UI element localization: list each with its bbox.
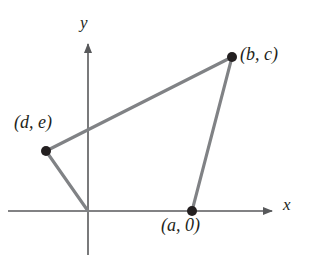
vertex-label-a0: (a, 0) — [161, 216, 200, 234]
edge-a0-to-bc — [192, 57, 232, 211]
edge-bc-to-de — [46, 57, 232, 151]
x-axis-label: x — [283, 196, 291, 213]
vertex-markers-group — [41, 52, 237, 216]
vertex-marker-bc — [227, 52, 237, 62]
vertex-marker-de — [41, 146, 51, 156]
vertex-label-bc: (b, c) — [240, 45, 278, 63]
y-axis-label: y — [80, 14, 88, 31]
polygon-edges-group — [46, 57, 232, 211]
geometry-figure: y x (b, c) (d, e) (a, 0) — [0, 0, 309, 264]
edge-de-to-origin — [46, 151, 88, 211]
vertex-label-de: (d, e) — [14, 113, 52, 131]
figure-canvas — [0, 0, 309, 264]
